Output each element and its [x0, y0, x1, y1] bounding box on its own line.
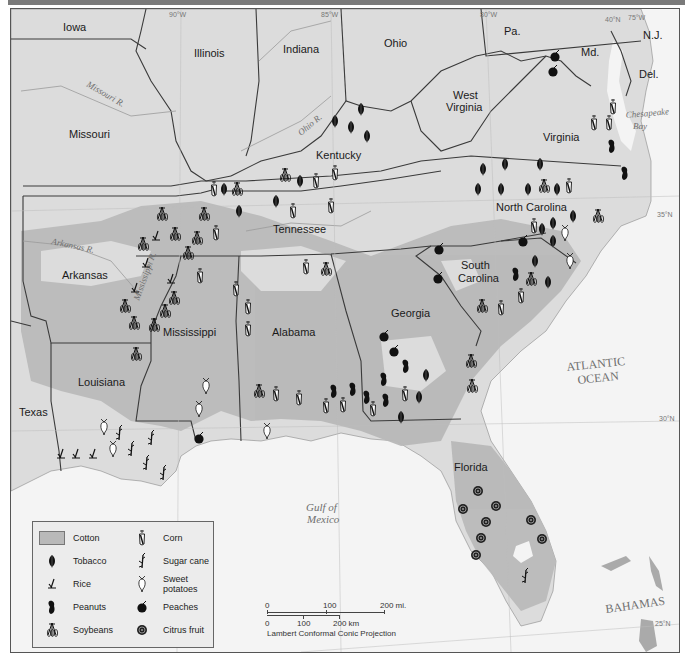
- state-label: West: [453, 89, 478, 101]
- state-label: Alabama: [272, 326, 316, 338]
- legend-label: Sugar cane: [163, 556, 213, 566]
- legend-item-cotton: Cotton: [39, 528, 123, 548]
- state-label: Iowa: [63, 21, 87, 33]
- scale-tick: [384, 610, 385, 614]
- legend-label: Cotton: [73, 533, 123, 543]
- scale-mi-0: 0: [265, 601, 269, 610]
- corn-icon: [134, 528, 150, 548]
- tobacco-icon: [44, 551, 60, 571]
- coordinate-label: 85°W: [321, 11, 339, 18]
- state-label: Md.: [581, 46, 599, 58]
- state-label: Kentucky: [316, 149, 362, 161]
- state-label: Pa.: [504, 25, 521, 37]
- scale-km-200: 200 km: [333, 619, 359, 628]
- water-label: Mexico: [306, 513, 340, 525]
- citrus-icon: [537, 534, 547, 544]
- coordinate-label: 40°N: [605, 16, 621, 23]
- citrus-icon: [458, 504, 468, 514]
- scale-tick: [326, 610, 327, 614]
- citrus-icon: [473, 486, 483, 496]
- title-bar: [8, 0, 685, 5]
- sweet-potatoes-icon: [134, 574, 150, 594]
- coordinate-label: 90°W: [169, 11, 187, 18]
- legend-item-tobacco: Tobacco: [39, 551, 123, 571]
- legend-item-peanuts: Peanuts: [39, 597, 123, 617]
- state-label: South: [461, 259, 490, 271]
- citrus-icon: [471, 550, 481, 560]
- state-label: Florida: [454, 461, 489, 473]
- state-label: Del.: [639, 68, 659, 80]
- legend-label: Peaches: [163, 602, 213, 612]
- peanuts-icon: [44, 597, 60, 617]
- scale-mi-200: 200 mi.: [380, 601, 406, 610]
- projection-label: Lambert Conformal Conic Projection: [267, 629, 396, 638]
- citrus-icon: [481, 517, 491, 527]
- state-label: Tennessee: [273, 223, 326, 235]
- coordinate-label: 25°N: [655, 620, 671, 627]
- soybeans-icon: [44, 620, 60, 640]
- state-label: Virginia: [446, 101, 483, 113]
- legend-item-citrus: Citrus fruit: [129, 620, 213, 640]
- state-label: Ohio: [384, 37, 407, 49]
- scale-km-100: 100: [297, 619, 310, 628]
- legend-item-peaches: Peaches: [129, 597, 213, 617]
- legend-label: Sweet potatoes: [163, 574, 213, 594]
- state-label: Louisiana: [78, 376, 126, 388]
- legend-label: Rice: [73, 579, 123, 589]
- state-label: Texas: [19, 406, 48, 418]
- state-label: Missouri: [69, 128, 110, 140]
- coordinate-label: 30°N: [659, 415, 675, 422]
- state-label: Mississippi: [163, 326, 216, 338]
- state-label: Virginia: [543, 131, 580, 143]
- map-legend: Cotton Tobacco Rice Peanuts Soybeans Cor…: [32, 521, 214, 648]
- legend-item-corn: Corn: [129, 528, 213, 548]
- citrus-icon: [476, 533, 486, 543]
- legend-label: Citrus fruit: [163, 625, 213, 635]
- map-frame: IowaIllinoisIndianaOhioPa.Md.N.J.Del.Mis…: [10, 8, 680, 653]
- legend-item-rice: Rice: [39, 574, 123, 594]
- sugar-cane-icon: [134, 551, 150, 571]
- cotton-swatch: [39, 531, 65, 545]
- coordinate-label: 80°W: [480, 11, 498, 18]
- legend-item-soybeans: Soybeans: [39, 620, 123, 640]
- coordinate-label: 75°W: [628, 14, 646, 21]
- scale-tick: [267, 610, 268, 614]
- river-label: Bay: [633, 121, 647, 131]
- legend-item-sweet-potatoes: Sweet potatoes: [129, 574, 213, 594]
- scale-mi-100: 100: [323, 601, 336, 610]
- coordinate-label: 35°N: [657, 211, 673, 218]
- state-label: North Carolina: [496, 201, 568, 213]
- legend-label: Soybeans: [73, 625, 123, 635]
- legend-label: Corn: [163, 533, 213, 543]
- citrus-icon: [491, 501, 501, 511]
- citrus-icon: [526, 515, 536, 525]
- rice-icon: [44, 574, 60, 594]
- state-label: Illinois: [194, 47, 225, 59]
- scale-km-0: 0: [265, 619, 269, 628]
- state-label: Arkansas: [62, 269, 108, 281]
- legend-item-sugar-cane: Sugar cane: [129, 551, 213, 571]
- state-label: N.J.: [643, 29, 663, 41]
- legend-label: Peanuts: [73, 602, 123, 612]
- state-label: Carolina: [458, 272, 500, 284]
- state-label: Indiana: [283, 43, 320, 55]
- state-label: Georgia: [391, 307, 431, 319]
- water-label: Gulf of: [306, 501, 339, 513]
- citrus-icon: [134, 620, 150, 640]
- peaches-icon: [134, 597, 150, 617]
- legend-label: Tobacco: [73, 556, 123, 566]
